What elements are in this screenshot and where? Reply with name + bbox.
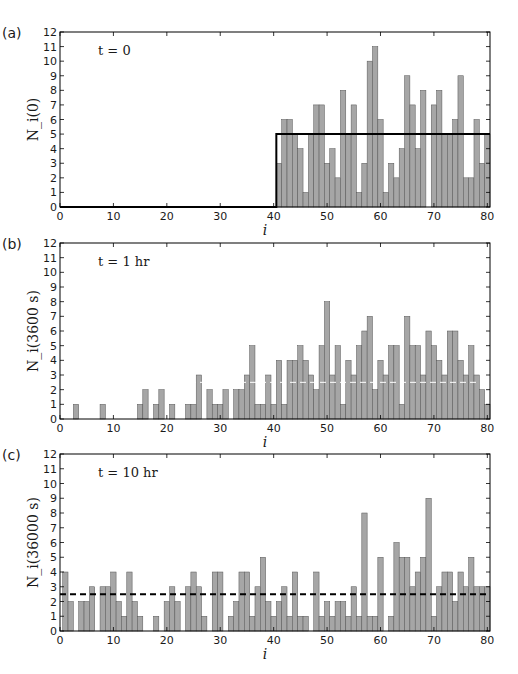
y-tick-label: 8 (50, 507, 57, 520)
bar (469, 178, 474, 207)
bar (282, 404, 287, 419)
bar (458, 76, 463, 207)
y-tick-label: 10 (43, 266, 57, 279)
bar (485, 134, 490, 207)
bar (116, 602, 121, 632)
bar (319, 616, 324, 631)
bar (292, 572, 297, 631)
bar (191, 404, 196, 419)
bar (143, 390, 148, 419)
bar (346, 616, 351, 631)
bar (159, 390, 164, 419)
x-tick-label: 40 (267, 634, 281, 647)
y-tick-label: 2 (50, 172, 57, 185)
bar (463, 178, 468, 207)
y-tick-label: 5 (50, 340, 57, 353)
y-tick-label: 3 (50, 581, 57, 594)
bar (437, 360, 442, 419)
bar (415, 149, 420, 207)
x-axis-label: i (263, 222, 267, 238)
bar (389, 163, 394, 207)
bar (394, 178, 399, 207)
x-tick-label: 70 (427, 210, 441, 223)
bar (314, 105, 319, 207)
y-tick-label: 9 (50, 492, 57, 505)
y-tick-label: 6 (50, 114, 57, 127)
x-tick-label: 0 (57, 422, 64, 435)
bars (63, 498, 490, 631)
x-tick-label: 50 (320, 210, 334, 223)
bar (362, 513, 367, 631)
bar (137, 616, 142, 631)
bar (372, 47, 377, 207)
bar (308, 375, 313, 419)
bar (410, 105, 415, 207)
bar (324, 602, 329, 632)
bar (234, 390, 239, 419)
bar (346, 134, 351, 207)
bar (84, 602, 89, 632)
y-tick-label: 12 (43, 237, 57, 250)
panel-a: 012345678910111201020304050607080(a)t = … (2, 25, 494, 238)
bar (442, 134, 447, 207)
bar (255, 404, 260, 419)
y-tick-label: 10 (43, 55, 57, 68)
bar (314, 572, 319, 631)
bar (367, 316, 372, 419)
bar (324, 302, 329, 419)
bar (207, 390, 212, 419)
bar (287, 616, 292, 631)
bar (479, 390, 484, 419)
x-tick-label: 10 (106, 422, 120, 435)
panel-label: (c) (2, 447, 21, 463)
x-tick-label: 20 (160, 210, 174, 223)
bar (442, 572, 447, 631)
bar (351, 105, 356, 207)
x-tick-label: 30 (213, 634, 227, 647)
bar (389, 616, 394, 631)
bar (335, 602, 340, 632)
bar (399, 404, 404, 419)
bar (351, 375, 356, 419)
bar (330, 375, 335, 419)
x-tick-label: 60 (373, 422, 387, 435)
x-tick-label: 50 (320, 634, 334, 647)
bar (437, 90, 442, 207)
bar (383, 192, 388, 207)
bars (73, 302, 490, 419)
bar (170, 404, 175, 419)
bar (447, 134, 452, 207)
panel-b: 012345678910111201020304050607080(b)t = … (2, 236, 494, 450)
bar (111, 572, 116, 631)
x-tick-label: 20 (160, 422, 174, 435)
bar (308, 134, 313, 207)
y-axis-label: N_i(3600 s) (25, 290, 42, 372)
x-axis-label: i (263, 646, 267, 662)
bar (282, 120, 287, 208)
bar (244, 572, 249, 631)
x-tick-label: 80 (480, 634, 494, 647)
bar (405, 76, 410, 207)
bar (298, 616, 303, 631)
y-tick-label: 9 (50, 70, 57, 83)
y-tick-label: 7 (50, 522, 57, 535)
bar (132, 602, 137, 632)
time-annotation: t = 10 hr (98, 465, 158, 480)
bar (287, 120, 292, 208)
bar (121, 616, 126, 631)
bar (250, 616, 255, 631)
y-tick-label: 2 (50, 596, 57, 609)
bar (335, 178, 340, 207)
x-tick-label: 30 (213, 422, 227, 435)
y-tick-label: 11 (43, 463, 57, 476)
bar (362, 331, 367, 419)
bar (431, 105, 436, 207)
x-tick-label: 10 (106, 634, 120, 647)
bar (196, 375, 201, 419)
bar (383, 375, 388, 419)
bar (458, 572, 463, 631)
bar (244, 375, 249, 419)
panel-label: (a) (2, 25, 22, 41)
time-annotation: t = 1 hr (98, 254, 150, 269)
y-axis-label: N_i(0) (25, 98, 42, 142)
